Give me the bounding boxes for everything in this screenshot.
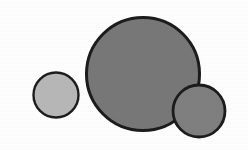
bottom-right-circle[interactable] [173, 85, 225, 137]
figure-canvas [0, 0, 248, 150]
circles-diagram [0, 0, 248, 150]
small-left-circle[interactable] [34, 73, 79, 118]
